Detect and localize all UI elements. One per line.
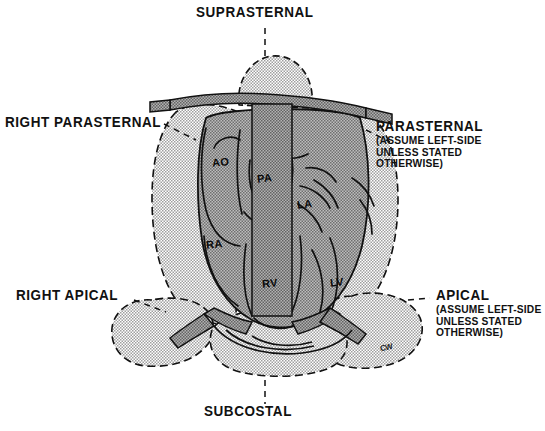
chamber-label-ao: AO xyxy=(211,155,229,169)
leader-apical xyxy=(408,298,430,300)
label-parasternal-title: PARASTERNAL xyxy=(376,119,483,135)
label-apical-note-3: OTHERWISE) xyxy=(436,327,541,339)
label-apical-title: APICAL xyxy=(436,288,541,304)
label-apical-group: APICAL (ASSUME LEFT-SIDE UNLESS STATED O… xyxy=(432,288,545,339)
chamber-label-lv: LV xyxy=(329,275,344,288)
label-suprasternal: SUPRASTERNAL xyxy=(196,5,314,21)
label-subcostal: SUBCOSTAL xyxy=(204,404,292,420)
label-right-parasternal: RIGHT PARASTERNAL xyxy=(5,115,161,131)
chamber-label-pa: PA xyxy=(256,171,272,185)
label-right-apical: RIGHT APICAL xyxy=(16,288,118,304)
label-parasternal-group: PARASTERNAL (ASSUME LEFT-SIDE UNLESS STA… xyxy=(372,119,487,170)
chamber-label-ra: RA xyxy=(205,237,223,251)
chamber-label-rv: RV xyxy=(261,276,278,290)
chamber-label-la: LA xyxy=(296,197,312,211)
label-parasternal-note-3: OTHERWISE) xyxy=(376,158,483,170)
